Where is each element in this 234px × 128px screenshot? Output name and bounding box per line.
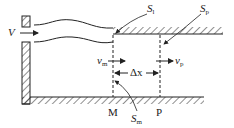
- spacing-label: Δx: [130, 67, 143, 78]
- surface-l-label: Sl: [147, 3, 154, 16]
- section-m-label: M: [108, 107, 118, 118]
- velocity-m-sub: m: [102, 60, 107, 68]
- surface-l-sub: l: [153, 8, 155, 16]
- surface-m-sub: m: [137, 118, 142, 126]
- jet-upper-streamline: [34, 20, 113, 28]
- velocity-m-label: vm: [97, 55, 107, 68]
- velocity-p-sub: p: [180, 60, 184, 68]
- inflow-velocity-label: V: [8, 27, 15, 38]
- left-wall: [22, 42, 30, 104]
- surface-m-label: Sm: [131, 113, 142, 126]
- jet-lower-streamline: [34, 37, 113, 43]
- velocity-p-label: vp: [175, 55, 183, 68]
- leader-s-m: [115, 81, 137, 111]
- section-p-label: P: [156, 107, 162, 118]
- top-wall: [113, 27, 223, 34]
- surface-p-sub: p: [206, 8, 210, 16]
- surface-p-label: Sp: [200, 3, 209, 16]
- spacing-text: Δx: [130, 66, 143, 78]
- bottom-wall: [22, 97, 204, 104]
- upper-left-wall-block: [22, 16, 30, 27]
